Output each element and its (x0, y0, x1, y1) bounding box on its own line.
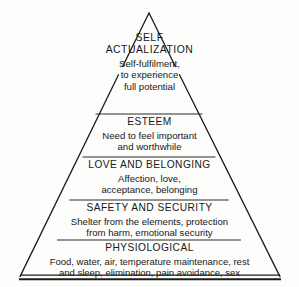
level-description: Affection, love, acceptance, belonging (0, 173, 299, 196)
level-heading-line: SELF (0, 32, 299, 44)
pyramid-level-physiological: PHYSIOLOGICAL Food, water, air, temperat… (0, 242, 299, 278)
level-description-line: Shelter from the elements, protection (0, 216, 299, 227)
level-heading-line: ACTUALIZATION (0, 44, 299, 56)
level-heading: SAFETY AND SECURITY (0, 202, 299, 214)
pyramid-level-self-actualization: SELF ACTUALIZATION Self-fulfilment, to e… (0, 32, 299, 92)
level-heading: ESTEEM (0, 116, 299, 128)
level-heading-line: LOVE AND BELONGING (0, 159, 299, 171)
level-description-line: Need to feel important (0, 130, 299, 141)
level-description: Need to feel important and worthwhile (0, 130, 299, 153)
level-description: Shelter from the elements, protection fr… (0, 216, 299, 239)
maslow-pyramid-figure: SELF ACTUALIZATION Self-fulfilment, to e… (0, 0, 299, 287)
level-description: Food, water, air, temperature maintenanc… (0, 256, 299, 279)
level-description-line: Food, water, air, temperature maintenanc… (0, 256, 299, 267)
level-description-line: and worthwhile (0, 141, 299, 152)
level-description-line: Affection, love, (0, 173, 299, 184)
level-description-line: acceptance, belonging (0, 184, 299, 195)
level-description-line: and sleep, elimination, pain avoidance, … (0, 267, 299, 278)
level-heading-line: SAFETY AND SECURITY (0, 202, 299, 214)
level-description: Self-fulfilment, to experience full pote… (0, 58, 299, 92)
pyramid-level-safety-and-security: SAFETY AND SECURITY Shelter from the ele… (0, 202, 299, 238)
level-heading: SELF ACTUALIZATION (0, 32, 299, 55)
level-description-line: full potential (0, 81, 299, 92)
level-description-line: to experience (0, 69, 299, 80)
level-heading: PHYSIOLOGICAL (0, 242, 299, 254)
level-description-line: Self-fulfilment, (0, 58, 299, 69)
pyramid-level-love-and-belonging: LOVE AND BELONGING Affection, love, acce… (0, 159, 299, 195)
pyramid-level-esteem: ESTEEM Need to feel important and worthw… (0, 116, 299, 152)
level-heading-line: ESTEEM (0, 116, 299, 128)
level-heading-line: PHYSIOLOGICAL (0, 242, 299, 254)
level-heading: LOVE AND BELONGING (0, 159, 299, 171)
level-description-line: from harm, emotional security (0, 227, 299, 238)
